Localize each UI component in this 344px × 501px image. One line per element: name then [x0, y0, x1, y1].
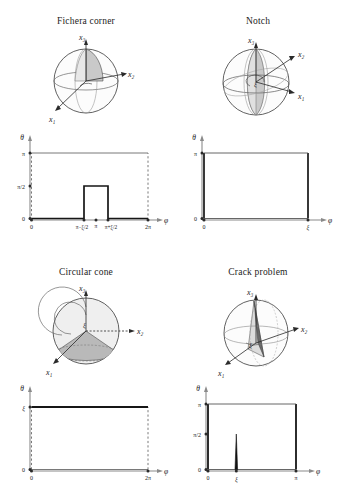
- plot-crack: 0 π/2 π θ 0 ξ π φ: [172, 379, 344, 491]
- panel-title: Fichera corner: [0, 16, 172, 26]
- sphere-diagram-notch: x₃ x₂ x₁ ξ: [172, 26, 344, 130]
- ytick-0: 0: [194, 216, 197, 222]
- xtick-3: π+ξ/2: [105, 224, 118, 231]
- ytick-1: π/2: [17, 184, 25, 190]
- axis-label-x3: x₃: [246, 288, 254, 297]
- axis-label-x1: x₁: [297, 92, 305, 101]
- angle-label-xi: ξ: [83, 321, 86, 329]
- panel-crack-problem: Crack problem x₃: [172, 251, 344, 501]
- ytick-1: π: [194, 151, 197, 157]
- xtick-0: 0: [30, 475, 33, 481]
- panel-notch: Notch: [172, 0, 344, 250]
- angle-label-xi: ξ: [249, 341, 252, 349]
- sphere-diagram-cone: x₃ x₂ x₁ ξ: [0, 277, 172, 381]
- xtick-2: π: [95, 223, 98, 229]
- axis-label-x3: x₃: [78, 284, 86, 293]
- panel-circular-cone: Circular cone x₃: [0, 251, 172, 501]
- panel-title: Notch: [172, 16, 344, 26]
- xtick-0: 0: [30, 224, 33, 230]
- plot-fichera: 0 π/2 π θ 0 π−ξ/2 π π+ξ/2 2π φ: [0, 128, 172, 240]
- sphere-diagram-fichera: x₃ x₂ x₁: [0, 26, 172, 130]
- ytick-0: 0: [22, 216, 25, 222]
- ytick-2: π: [22, 151, 25, 157]
- panel-fichera-corner: Fichera corner: [0, 0, 172, 250]
- axis-label-theta: θ: [20, 133, 24, 142]
- axis-label-x2: x₂: [297, 50, 305, 59]
- xtick-1: 2π: [145, 475, 151, 481]
- axis-label-x3: x₃: [247, 36, 255, 45]
- axis-label-phi: φ: [328, 216, 332, 225]
- ytick-0: 0: [198, 467, 201, 473]
- axis-label-x2: x₂: [300, 325, 308, 334]
- axis-label-theta: θ: [196, 384, 200, 393]
- xtick-1: ξ: [307, 223, 310, 231]
- sphere-diagram-crack: x₃ x₂ x₁ ξ: [172, 277, 344, 381]
- axis-label-x1: x₁: [217, 369, 225, 378]
- ytick-1: ξ: [22, 404, 25, 412]
- ytick-0: 0: [22, 467, 25, 473]
- plot-notch: 0 π θ 0 ξ φ: [172, 128, 344, 240]
- plot-cone: 0 ξ θ 0 2π φ: [0, 379, 172, 491]
- axis-label-theta: θ: [20, 384, 24, 393]
- xtick-2: π: [294, 475, 297, 481]
- axis-label-theta: θ: [192, 133, 196, 142]
- xtick-0: 0: [203, 224, 206, 230]
- ytick-2: π: [198, 402, 201, 408]
- figure-root: Fichera corner: [0, 0, 344, 501]
- axis-label-x2: x₂: [127, 70, 135, 79]
- axis-label-x3: x₃: [78, 33, 86, 42]
- panel-title: Crack problem: [172, 267, 344, 277]
- xtick-1: ξ: [235, 475, 238, 483]
- angle-label-xi: ξ: [254, 80, 257, 88]
- panel-title: Circular cone: [0, 267, 172, 277]
- xtick-1: π−ξ/2: [76, 224, 89, 231]
- axis-label-phi: φ: [164, 216, 168, 225]
- axis-label-x1: x₁: [45, 368, 53, 377]
- axis-label-phi: φ: [316, 467, 320, 476]
- axis-label-x2: x₂: [136, 327, 144, 336]
- xtick-0: 0: [207, 475, 210, 481]
- axis-label-phi: φ: [164, 467, 168, 476]
- ytick-1: π/2: [193, 432, 201, 438]
- axis-label-x1: x₁: [48, 115, 56, 124]
- xtick-4: 2π: [145, 224, 151, 230]
